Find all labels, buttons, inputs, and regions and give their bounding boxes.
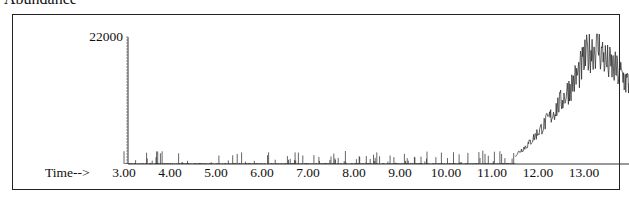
x-tick-label: 3.00 [112,165,136,180]
x-axis-label: Time--> [45,165,90,180]
x-tick-label: 13.00 [569,165,600,180]
x-tick-label: 5.00 [204,165,228,180]
x-tick-label: 12.00 [523,165,554,180]
y-tick-label: 22000 [89,29,123,44]
x-tick-label: 7.00 [296,165,320,180]
x-tick-label: 10.00 [431,165,462,180]
chromatogram-plot: 22000Time-->3.004.005.006.007.008.009.00… [0,0,629,203]
x-tick-label: 9.00 [388,165,412,180]
x-tick-label: 8.00 [342,165,366,180]
x-tick-label: 6.00 [250,165,274,180]
x-tick-label: 4.00 [158,165,182,180]
x-tick-label: 11.00 [477,165,507,180]
tic-trace [124,34,629,164]
